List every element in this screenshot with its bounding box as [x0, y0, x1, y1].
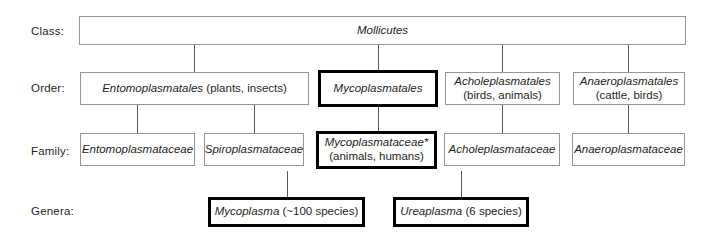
connector-order-to-acholeplasmataceae	[502, 105, 503, 133]
node-family-anaeroplasmataceae[interactable]: Anaeroplasmataceae	[572, 133, 685, 166]
node-family-entomoplasmataceae[interactable]: Entomoplasmataceae	[80, 133, 195, 166]
node-order-entomoplasmatales[interactable]: Entomoplasmatales (plants, insects)	[80, 72, 309, 105]
row-label-family: Family:	[31, 146, 69, 158]
node-detail-entomoplasmatales: (plants, insects)	[206, 82, 287, 94]
node-label-anaeroplasmataceae: Anaeroplasmataceae	[574, 143, 683, 155]
node-order-anaeroplasmatales[interactable]: Anaeroplasmatales (cattle, birds)	[573, 72, 685, 105]
node-label-ureaplasma: Ureaplasma	[400, 205, 462, 217]
connector-order-to-mycoplasmataceae	[378, 105, 379, 133]
connector-order-to-anaeroplasmataceae	[628, 105, 629, 133]
node-detail-mycoplasmataceae: (animals, humans)	[325, 150, 429, 164]
node-genus-mycoplasma[interactable]: Mycoplasma (~100 species)	[208, 197, 365, 227]
row-label-order: Order:	[31, 83, 65, 95]
node-label-entomoplasmatales: Entomoplasmatales	[102, 82, 203, 94]
node-family-spiroplasmataceae[interactable]: Spiroplasmataceae	[204, 133, 304, 166]
node-label-acholeplasmataceae: Acholeplasmataceae	[449, 143, 556, 155]
connector-order-to-spiroplasmataceae	[254, 105, 255, 133]
row-label-class: Class:	[31, 26, 64, 38]
connector-family-to-mycoplasma	[287, 171, 288, 197]
node-detail-acholeplasmatales: (birds, animals)	[454, 89, 551, 103]
node-label-spiroplasmataceae: Spiroplasmataceae	[205, 143, 303, 155]
node-label-mollicutes: Mollicutes	[357, 24, 408, 36]
node-order-mycoplasmatales[interactable]: Mycoplasmatales	[318, 70, 438, 107]
node-label-anaeroplasmatales: Anaeroplasmatales	[580, 75, 678, 87]
connector-class-to-anaeroplasmatales	[628, 45, 629, 72]
node-family-mycoplasmataceae[interactable]: Mycoplasmataceae* (animals, humans)	[316, 131, 437, 169]
node-label-entomoplasmataceae: Entomoplasmataceae	[82, 143, 193, 155]
node-family-acholeplasmataceae[interactable]: Acholeplasmataceae	[444, 133, 560, 166]
node-detail-ureaplasma: (6 species)	[465, 205, 521, 217]
node-label-mycoplasmatales: Mycoplasmatales	[334, 82, 423, 94]
connector-class-to-mycoplasmatales	[378, 45, 379, 72]
connector-family-to-ureaplasma	[461, 171, 462, 197]
node-label-acholeplasmatales: Acholeplasmatales	[454, 75, 551, 87]
taxonomy-diagram: Class: Order: Family: Genera: Mollicutes…	[0, 0, 721, 242]
connector-order-to-entomoplasmataceae	[137, 105, 138, 133]
connector-class-to-entomoplasmatales	[194, 45, 195, 72]
connector-class-to-acholeplasmatales	[502, 45, 503, 72]
node-detail-mycoplasma: (~100 species)	[283, 205, 359, 217]
row-label-genera: Genera:	[31, 206, 74, 218]
node-detail-anaeroplasmatales: (cattle, birds)	[580, 89, 678, 103]
node-genus-ureaplasma[interactable]: Ureaplasma (6 species)	[393, 197, 529, 227]
node-label-mycoplasma: Mycoplasma	[215, 205, 280, 217]
node-class-mollicutes[interactable]: Mollicutes	[79, 16, 686, 45]
node-order-acholeplasmatales[interactable]: Acholeplasmatales (birds, animals)	[445, 72, 560, 105]
node-label-mycoplasmataceae: Mycoplasmataceae*	[325, 136, 429, 148]
